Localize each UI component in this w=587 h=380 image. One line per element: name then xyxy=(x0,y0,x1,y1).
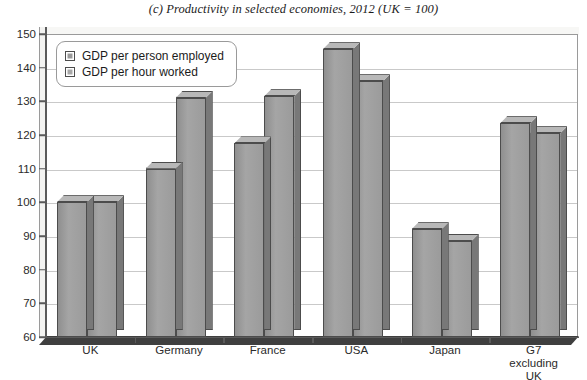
bar-side-face xyxy=(264,136,271,330)
y-axis-tick-label: 140 xyxy=(2,62,36,74)
bar-side-face xyxy=(117,195,124,330)
y-axis-tick-mark xyxy=(39,235,45,237)
bar xyxy=(57,195,94,337)
x-axis-tick-mark xyxy=(223,337,225,343)
x-axis-category-label: UK xyxy=(82,344,98,357)
chart-title: (c) Productivity in selected economies, … xyxy=(0,2,587,17)
bar xyxy=(412,222,449,337)
y-axis-tick-mark xyxy=(39,134,45,136)
y-axis-tick-label: 70 xyxy=(2,297,36,309)
bar-side-face xyxy=(383,74,390,330)
legend-item-gdp-per-hour-worked: GDP per hour worked xyxy=(65,64,224,80)
gridline xyxy=(47,271,577,272)
bar-front-face xyxy=(323,49,353,337)
y-axis-tick-label: 150 xyxy=(2,28,36,40)
bar-side-face xyxy=(442,222,449,330)
y-axis-tick-label: 90 xyxy=(2,230,36,242)
x-axis-category-label: USA xyxy=(345,344,369,357)
legend-swatch-icon xyxy=(65,67,75,77)
x-axis-tick-mark xyxy=(489,337,491,343)
gridline xyxy=(47,304,577,305)
gridline xyxy=(47,203,577,204)
bar-side-face xyxy=(530,116,537,330)
legend-item-label: GDP per hour worked xyxy=(82,65,198,79)
x-axis-tick-mark xyxy=(401,337,403,343)
bar-side-face xyxy=(294,89,301,330)
bar-front-face xyxy=(234,143,264,337)
bar xyxy=(146,162,183,337)
y-axis-tick-mark xyxy=(39,202,45,204)
chart-legend: GDP per person employed GDP per hour wor… xyxy=(56,41,237,87)
bar-side-face xyxy=(560,126,567,330)
y-axis-tick-label: 100 xyxy=(2,196,36,208)
y-axis-tick-label: 60 xyxy=(2,331,36,343)
x-axis-tick-mark xyxy=(135,337,137,343)
y-axis-tick-mark xyxy=(39,101,45,103)
y-axis-tick-label: 80 xyxy=(2,264,36,276)
bar xyxy=(500,116,537,337)
y-axis-tick-label: 110 xyxy=(2,163,36,175)
legend-swatch-icon xyxy=(65,51,75,61)
gridline xyxy=(47,136,577,137)
bar-side-face xyxy=(176,162,183,330)
bar xyxy=(234,136,271,337)
gridline xyxy=(47,102,577,103)
bar-side-face xyxy=(472,234,479,330)
bar-side-face xyxy=(87,195,94,330)
y-axis-tick-mark xyxy=(39,269,45,271)
y-axis-tick-mark xyxy=(39,67,45,69)
y-axis-tick-mark xyxy=(39,336,45,338)
gridline xyxy=(47,170,577,171)
y-axis-line xyxy=(45,27,47,338)
bar-side-face xyxy=(206,91,213,330)
bar-front-face xyxy=(500,123,530,337)
bar-front-face xyxy=(57,202,87,337)
legend-item-gdp-per-person-employed: GDP per person employed xyxy=(65,48,224,64)
bar xyxy=(323,42,360,337)
bar-front-face xyxy=(146,169,176,337)
y-axis-tick-mark xyxy=(39,33,45,35)
y-axis-tick-label: 120 xyxy=(2,129,36,141)
legend-item-label: GDP per person employed xyxy=(82,49,224,63)
chart-figure: (c) Productivity in selected economies, … xyxy=(0,0,587,380)
x-axis-category-label: France xyxy=(250,344,286,357)
bar-front-face xyxy=(412,229,442,337)
x-axis-tick-mark xyxy=(312,337,314,343)
gridline xyxy=(47,237,577,238)
y-axis-tick-mark xyxy=(39,303,45,305)
bar-side-face xyxy=(353,42,360,330)
x-axis-category-label: G7 excluding UK xyxy=(509,344,558,380)
y-axis-tick-mark xyxy=(39,168,45,170)
y-axis-tick-label: 130 xyxy=(2,95,36,107)
x-axis-category-label: Japan xyxy=(429,344,460,357)
x-axis-category-label: Germany xyxy=(155,344,202,357)
